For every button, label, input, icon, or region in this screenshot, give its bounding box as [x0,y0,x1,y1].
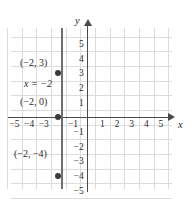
y-tick-label: −4 [70,172,84,182]
y-tick-label: 5 [70,40,84,50]
point-label-middle: (−2, 0) [20,97,47,107]
x-tick-label: 1 [95,120,109,130]
y-axis-arrow-icon [84,19,92,26]
y-axis [87,24,88,192]
gridline-horizontal [11,198,172,199]
y-tick-label: 2 [70,84,84,94]
x-tick-label: 2 [110,120,124,130]
x-tick-label: −5 [7,120,21,130]
x-tick-label: −3 [37,120,51,130]
gridline-vertical [168,28,169,189]
y-tick-label: 1 [70,99,84,109]
x-tick-label: −4 [22,120,36,130]
y-tick-label: −5 [70,187,84,197]
x-tick-label: 3 [125,120,139,130]
y-tick-label: 4 [70,55,84,65]
grid-area [11,28,172,189]
point-label-bottom: (−2, −4) [14,149,47,159]
gridline-horizontal [11,139,172,140]
equation-label: x = −2 [24,79,52,89]
gridline-horizontal [11,169,172,170]
vertical-line-x-equals-negative-2 [61,28,63,189]
point-label-top: (−2, 3) [20,58,47,68]
y-tick-label: 3 [70,69,84,79]
x-axis [8,117,171,118]
y-tick-label: −1 [70,128,84,138]
gridline-vertical [7,28,8,189]
y-tick-label: −3 [70,157,84,167]
gridline-horizontal [11,183,172,184]
coordinate-plane-figure: −5−4−3−11234554321−1−2−3−4−5 x y (−2, 3)… [0,0,192,201]
gridline-horizontal [11,110,172,111]
y-tick-label: −2 [70,143,84,153]
x-tick-label: 4 [139,120,153,130]
gridline-horizontal [11,51,172,52]
y-axis-label: y [75,16,80,27]
gridline-horizontal [11,37,172,38]
x-tick-label: 5 [154,120,168,130]
x-axis-label: x [178,120,183,131]
x-axis-arrow-icon [168,113,175,121]
